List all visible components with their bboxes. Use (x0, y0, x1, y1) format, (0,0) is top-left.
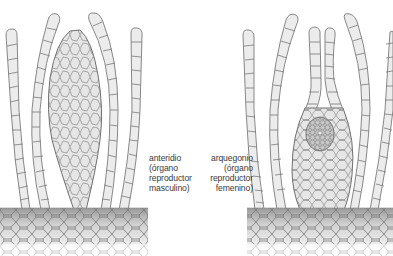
label-line: arquegonio (210, 153, 253, 163)
label-line: anteridio (149, 153, 192, 163)
label-line: (órgano (210, 163, 253, 173)
antheridium (48, 30, 101, 210)
antheridium-panel (6, 13, 142, 210)
filament (6, 29, 30, 210)
egg-cell (306, 117, 334, 151)
label-line: femenino) (210, 183, 253, 193)
filament (119, 28, 142, 210)
label-line: masculino) (149, 183, 192, 193)
moss-reproductive-organs-diagram (0, 0, 393, 256)
archegonium-label: arquegonio (órgano reproductor femenino) (210, 153, 253, 193)
label-line: reproductor (149, 173, 192, 183)
label-line: (órgano (149, 163, 192, 173)
archegonium-panel (243, 14, 393, 210)
antheridium-label: anteridio (órgano reproductor masculino) (149, 153, 192, 193)
archegonium (292, 27, 353, 210)
label-line: reproductor (210, 173, 253, 183)
